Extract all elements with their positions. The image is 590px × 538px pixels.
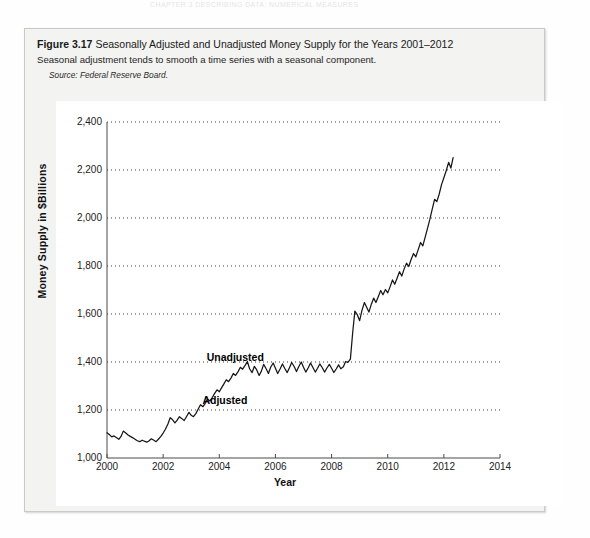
figure-title: Figure 3.17 Seasonally Adjusted and Unad… — [37, 37, 534, 51]
figure-number: Figure 3.17 — [37, 38, 92, 50]
figure-title-text: Seasonally Adjusted and Unadjusted Money… — [95, 38, 453, 50]
figure-source: Source: Federal Reserve Board. — [49, 70, 534, 80]
figure-page: CHAPTER 3 DESCRIBING DATA: NUMERICAL MEA… — [0, 0, 590, 538]
source-text: Federal Reserve Board. — [80, 70, 168, 80]
figure-subtitle: Seasonal adjustment tends to smooth a ti… — [37, 53, 534, 67]
figure-header: Figure 3.17 Seasonally Adjusted and Unad… — [37, 37, 534, 80]
running-head: CHAPTER 3 DESCRIBING DATA: NUMERICAL MEA… — [150, 1, 450, 8]
source-label: Source: — [49, 70, 78, 80]
plot-panel — [56, 101, 562, 506]
figure-card: Figure 3.17 Seasonally Adjusted and Unad… — [24, 28, 545, 512]
